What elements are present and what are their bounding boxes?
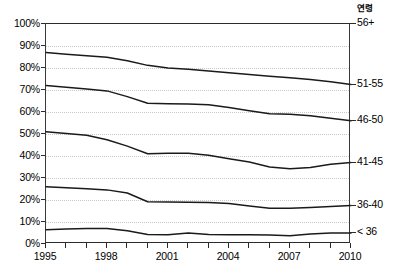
x-axis-tick <box>65 243 66 248</box>
y-axis-tick-label: 60% <box>0 106 40 117</box>
y-axis-tick-label: 70% <box>0 84 40 95</box>
band-label: 56+ <box>357 17 374 28</box>
x-axis-tick <box>289 243 290 248</box>
plot-area <box>45 23 350 243</box>
band-label-tick <box>350 23 356 24</box>
series-line <box>46 229 351 236</box>
band-label: 46-50 <box>357 114 383 125</box>
band-label: 41-45 <box>357 156 383 167</box>
x-axis-tick <box>167 243 168 248</box>
x-axis-tick <box>330 243 331 248</box>
y-axis-tick-label: 40% <box>0 150 40 161</box>
x-axis-tick-label: 2007 <box>266 251 312 262</box>
band-label-tick <box>350 120 356 121</box>
series-lines <box>46 24 351 244</box>
y-axis-tick-label: 20% <box>0 194 40 205</box>
x-axis-tick <box>228 243 229 248</box>
x-axis-tick <box>106 243 107 248</box>
x-axis-tick <box>309 243 310 248</box>
band-label: 36-40 <box>357 199 383 210</box>
series-line <box>46 86 351 121</box>
x-axis-tick-label: 1998 <box>83 251 129 262</box>
x-axis-tick <box>147 243 148 248</box>
band-label-tick <box>350 162 356 163</box>
y-axis-tick-label: 30% <box>0 172 40 183</box>
x-axis-tick-label: 2001 <box>144 251 190 262</box>
series-line <box>46 132 351 169</box>
x-axis-tick <box>45 243 46 248</box>
y-axis-tick-label: 90% <box>0 40 40 51</box>
x-axis-tick-label: 2004 <box>205 251 251 262</box>
y-axis-tick-label: 50% <box>0 128 40 139</box>
series-line <box>46 53 351 85</box>
y-axis-tick-label: 10% <box>0 216 40 227</box>
x-axis-tick <box>208 243 209 248</box>
x-axis-tick <box>187 243 188 248</box>
x-axis-tick <box>248 243 249 248</box>
series-line <box>46 187 351 209</box>
x-axis-tick <box>350 243 351 248</box>
band-label-tick <box>350 84 356 85</box>
band-label: < 36 <box>357 226 377 237</box>
band-label: 51-55 <box>357 78 383 89</box>
x-axis-tick-label: 2010 <box>327 251 373 262</box>
y-axis-tick-label: 0% <box>0 238 40 249</box>
chart-root: 100%90%80%70%60%50%40%30%20%10%0% 199519… <box>0 0 400 277</box>
x-axis-tick <box>126 243 127 248</box>
x-axis-tick-label: 1995 <box>22 251 68 262</box>
y-axis-tick-label: 80% <box>0 62 40 73</box>
x-axis-tick <box>269 243 270 248</box>
x-axis-tick <box>86 243 87 248</box>
band-label-tick <box>350 232 356 233</box>
band-label-tick <box>350 205 356 206</box>
legend-title: 연령 <box>357 4 373 13</box>
y-axis-tick-label: 100% <box>0 18 40 29</box>
